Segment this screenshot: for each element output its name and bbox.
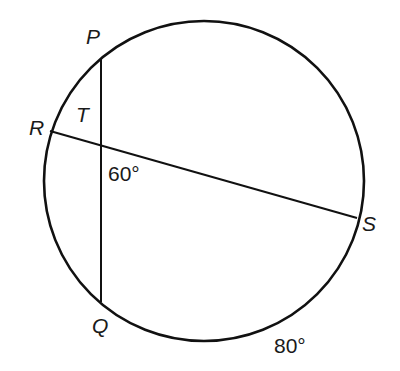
label-t: T	[76, 103, 91, 126]
chord-rs	[50, 131, 357, 218]
circle-diagram: P T R S Q 60° 80°	[0, 0, 400, 371]
label-p: P	[86, 25, 100, 48]
label-q: Q	[92, 314, 108, 337]
arc-label: 80°	[274, 334, 306, 357]
angle-label: 60°	[108, 162, 140, 185]
label-s: S	[362, 212, 376, 235]
circle	[44, 21, 364, 341]
label-r: R	[29, 116, 44, 139]
